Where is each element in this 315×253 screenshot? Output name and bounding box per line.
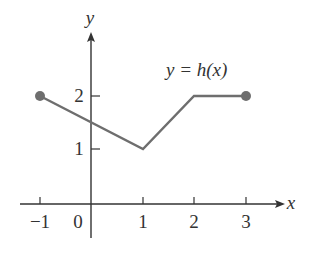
x-tick-label: 0 [73, 211, 83, 232]
right-endpoint-dot [241, 91, 251, 101]
x-tick-label: 2 [189, 211, 199, 232]
graph-canvas: −1 0 1 2 3 2 1 y x y = h(x) [0, 0, 315, 253]
x-ticks [40, 197, 246, 204]
y-tick-label: 2 [74, 85, 84, 106]
function-label: y = h(x) [164, 59, 227, 81]
x-tick-label: −1 [30, 211, 50, 232]
x-tick-label: 3 [241, 211, 251, 232]
x-tick-label: 1 [138, 211, 148, 232]
y-axis-label: y [84, 7, 95, 28]
y-tick-label: 1 [74, 138, 84, 159]
function-curve [40, 96, 246, 149]
x-axis-label: x [286, 192, 296, 213]
left-endpoint-dot [35, 91, 45, 101]
